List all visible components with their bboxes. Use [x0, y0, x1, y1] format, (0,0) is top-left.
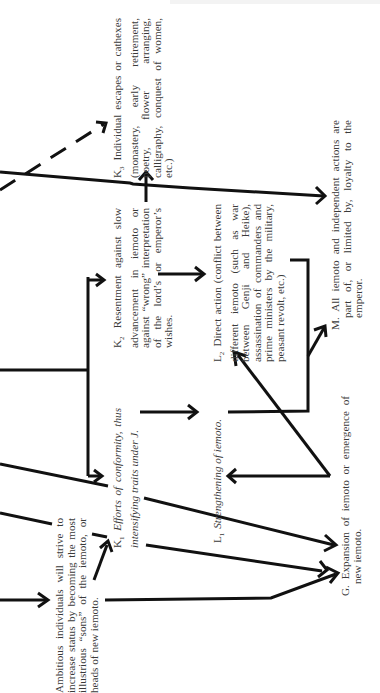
- node-ambitious: Ambitious individuals will strive to inc…: [54, 518, 100, 693]
- node-l2-sub: 2: [218, 352, 226, 356]
- arrowhead-g-2: [318, 561, 327, 577]
- node-k1: K1 Efforts of conformity, thus intensify…: [112, 408, 140, 548]
- edge-diag2-c: [146, 545, 322, 571]
- node-k2: K2 Resentment against slow advancement i…: [112, 208, 175, 348]
- node-k3-label: K: [111, 170, 123, 178]
- edge-diag-to-g-2: [144, 498, 334, 545]
- diagram-page: K3 Individual escapes or cathexes (monas…: [0, 0, 380, 693]
- node-l1-label: L: [211, 536, 223, 543]
- node-l1-text: Strengthening of iemoto.: [211, 419, 223, 529]
- node-k3-sub: 3: [118, 166, 126, 170]
- node-g-label: G.: [339, 585, 351, 596]
- edge-g-to-l2: [238, 355, 330, 476]
- edge-bottom-to-g: [105, 574, 336, 600]
- node-k1-sub: 1: [118, 536, 126, 540]
- node-l1: L1 Strengthening of iemoto.: [212, 403, 229, 543]
- node-l2-text: Direct action (conflict between differen…: [211, 204, 286, 362]
- node-k3: K3 Individual escapes or cathexes (monas…: [112, 18, 175, 178]
- node-k2-sub: 2: [118, 336, 126, 340]
- node-ambitious-text: Ambitious individuals will strive to inc…: [53, 518, 100, 693]
- node-k3-text: Individual escapes or cathexes (monaster…: [111, 18, 174, 178]
- edge-branch-to-m: [308, 328, 324, 356]
- node-g: G. Expansion of iemoto or emergence of n…: [340, 396, 363, 596]
- arrowhead-k3-dashed: [96, 122, 106, 133]
- node-m-label: M.: [329, 317, 341, 330]
- node-l2-label: L: [211, 355, 223, 362]
- edge-diag2-a: [0, 513, 52, 524]
- node-k2-text: Resentment against slow advancement in i…: [111, 208, 174, 348]
- node-l1-sub: 1: [218, 533, 226, 537]
- node-g-text: Expansion of iemoto or emergence of new …: [339, 396, 363, 584]
- node-l2: L2 Direct action (conflict between diffe…: [212, 204, 287, 362]
- node-k1-label: K: [111, 540, 123, 548]
- node-m-text: All iemoto and independent actions are p…: [329, 120, 364, 318]
- node-k1-text: Efforts of conformity, thus intensifying…: [111, 408, 140, 548]
- node-k2-label: K: [111, 340, 123, 348]
- node-m: M. All iemoto and independent actions ar…: [330, 120, 365, 330]
